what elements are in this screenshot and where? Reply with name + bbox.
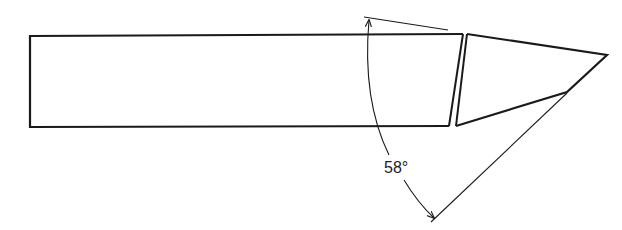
tool-tip <box>456 34 607 126</box>
angle-arc-lower <box>404 180 434 218</box>
angle-label: 58° <box>384 159 408 176</box>
angle-arc-upper <box>368 20 389 155</box>
tool-shank <box>30 34 463 127</box>
tool-bit-diagram: 58° <box>0 0 622 230</box>
upper-reference-line <box>364 17 448 30</box>
